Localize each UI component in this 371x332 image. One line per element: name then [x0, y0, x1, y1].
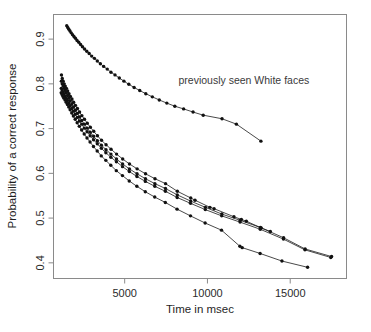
data-point [96, 134, 99, 137]
data-point [303, 248, 306, 251]
data-point [60, 73, 63, 76]
data-point [135, 175, 138, 178]
data-point [182, 107, 185, 110]
data-point [104, 148, 107, 151]
data-point [153, 195, 156, 198]
data-point [176, 190, 179, 193]
data-point [104, 151, 107, 154]
x-tick-label-2: 15000 [275, 287, 306, 299]
y-tick-label-4: 0.8 [34, 76, 46, 91]
data-point [115, 160, 118, 163]
data-point [92, 145, 95, 148]
data-point [144, 190, 147, 193]
data-point [189, 196, 192, 199]
data-point [153, 177, 156, 180]
data-point [144, 172, 147, 175]
data-point [89, 130, 92, 133]
data-point [85, 136, 88, 139]
y-tick-label-3: 0.7 [34, 121, 46, 136]
scatter-chart: 0.40.50.60.70.80.9 50001000015000 previo… [0, 0, 371, 332]
data-point [280, 259, 283, 262]
data-point [75, 121, 78, 124]
data-point [158, 98, 161, 101]
data-point [115, 152, 118, 155]
data-point [100, 143, 103, 146]
data-point [109, 164, 112, 167]
data-point [83, 132, 86, 135]
data-point [85, 130, 88, 133]
data-point [164, 182, 167, 185]
data-point [203, 221, 206, 224]
data-point [282, 237, 285, 240]
data-point [144, 180, 147, 183]
y-tick-label-1: 0.5 [34, 210, 46, 225]
data-point [87, 52, 90, 55]
data-point [96, 59, 99, 62]
data-point [86, 122, 89, 125]
data-point [92, 138, 95, 141]
data-point [189, 214, 192, 217]
x-tick-label-1: 10000 [192, 287, 223, 299]
data-point [259, 228, 262, 231]
y-axis-title: Probability of a correct response [6, 64, 18, 229]
data-point [153, 185, 156, 188]
data-point [89, 126, 92, 129]
data-point [93, 57, 96, 60]
data-point [100, 154, 103, 157]
data-point [109, 152, 112, 155]
data-point [122, 79, 125, 82]
data-point [151, 95, 154, 98]
data-point [121, 174, 124, 177]
data-point [106, 67, 109, 70]
data-point [132, 86, 135, 89]
data-point [109, 156, 112, 159]
data-point [121, 165, 124, 168]
data-point [80, 128, 83, 131]
data-point [191, 110, 194, 113]
data-point [96, 142, 99, 145]
data-point [220, 117, 223, 120]
data-point [220, 214, 223, 217]
data-point [118, 76, 121, 79]
data-point [68, 108, 71, 111]
data-point [189, 202, 192, 205]
data-point [113, 73, 116, 76]
data-point [329, 256, 332, 259]
x-tick-label-0: 5000 [112, 287, 136, 299]
data-point [78, 125, 81, 128]
data-point [99, 62, 102, 65]
data-point [164, 201, 167, 204]
data-point [109, 147, 112, 150]
y-tick-label-2: 0.6 [34, 166, 46, 181]
data-point [88, 134, 91, 137]
data-point [88, 140, 91, 143]
y-tick-label-5: 0.9 [34, 31, 46, 46]
data-point [104, 159, 107, 162]
series-annotation-label: previously seen White faces [179, 74, 310, 86]
data-point [128, 170, 131, 173]
data-point [202, 113, 205, 116]
data-point [128, 162, 131, 165]
data-point [173, 105, 176, 108]
data-point [175, 196, 178, 199]
data-point [104, 143, 107, 146]
data-point [175, 207, 178, 210]
data-point [92, 130, 95, 133]
data-point [164, 190, 167, 193]
data-point [121, 157, 124, 160]
data-point [235, 122, 238, 125]
data-point [212, 207, 215, 210]
data-point [259, 139, 262, 142]
x-axis-title: Time in msec [166, 303, 234, 315]
data-point [135, 185, 138, 188]
data-point [85, 126, 88, 129]
data-point [220, 228, 223, 231]
data-point [109, 71, 112, 74]
data-point [72, 114, 75, 117]
data-point [127, 83, 130, 86]
data-point [115, 169, 118, 172]
data-point [165, 101, 168, 104]
data-point [92, 135, 95, 138]
data-point [258, 252, 261, 255]
chart-container: 0.40.50.60.70.80.9 50001000015000 previo… [0, 0, 371, 332]
